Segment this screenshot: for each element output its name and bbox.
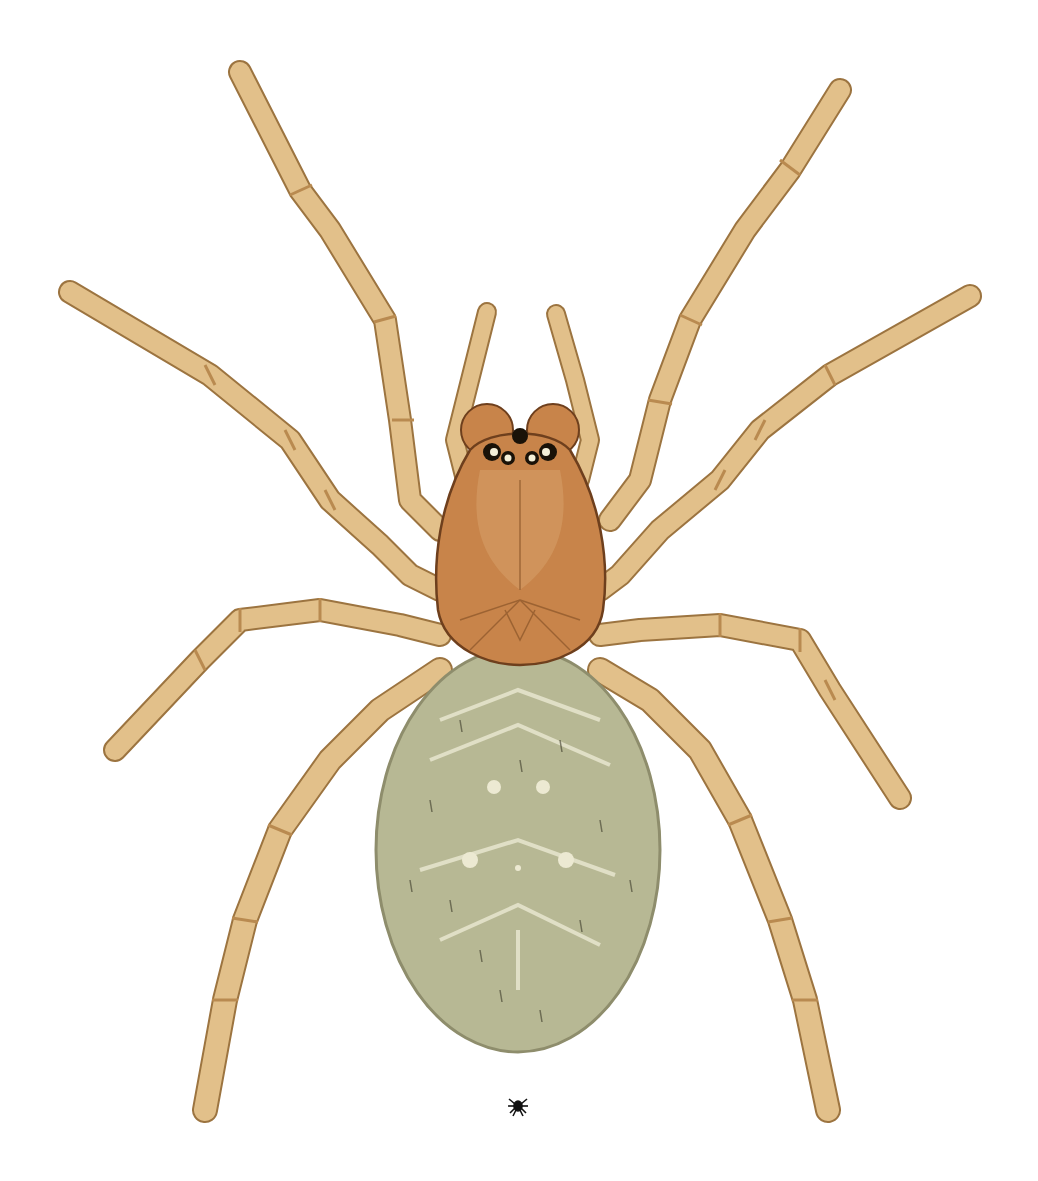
small-spider-scale-icon (508, 1099, 528, 1116)
abdomen-spot (487, 780, 501, 794)
spider-illustration (0, 0, 1038, 1181)
abdomen (376, 648, 660, 1052)
